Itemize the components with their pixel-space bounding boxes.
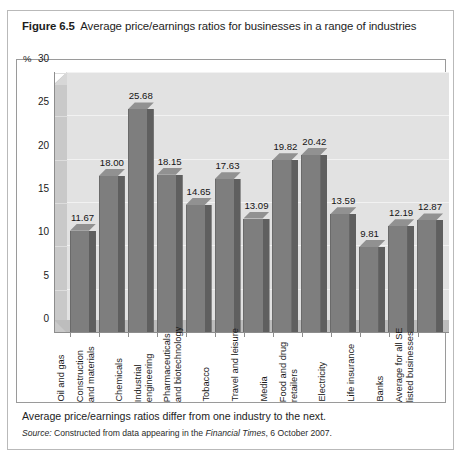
bar-side-face [436,220,443,332]
bar-value-label: 12.87 [418,201,442,212]
x-axis-category-label: Life insurance [346,344,357,402]
category-label-line: listed businesses [404,327,415,402]
bar-value-label: 20.42 [302,136,326,147]
bar-value-label: 18.15 [158,156,182,167]
bar [272,153,291,332]
category-label-line: Average for all SE [393,327,404,402]
bar-value-label: 19.82 [273,141,297,152]
bar-value-label: 25.68 [129,90,153,101]
bar-front-face [99,176,119,332]
category-label-line: Tobacco [201,367,212,402]
category-label-line: Chemicals [115,359,126,402]
bar [215,172,234,332]
bar [301,148,320,332]
bar-front-face [388,226,408,332]
category-label-line: engineering [144,353,155,402]
category-label-line: Life insurance [346,344,357,402]
category-label-line: retailers [288,342,299,402]
category-label-line: Construction [75,346,86,402]
bar-value-label: 12.19 [389,207,413,218]
bar-front-face [359,247,379,332]
x-axis-line [54,332,449,333]
bar-value-label: 13.59 [331,195,355,206]
figure-title-text: Average price/earnings ratios for busine… [80,20,416,32]
figure-title: Figure 6.5 Average price/earnings ratios… [22,19,442,35]
bar-side-face [118,176,125,332]
x-axis-category-label: Industrialengineering [133,353,154,402]
x-axis-tick [389,333,390,337]
bar-front-face [272,160,292,332]
x-axis-category-labels: Oil and gasConstructionand materialsChem… [17,340,447,402]
y-axis-tick-label: 5 [23,270,49,281]
bar-side-face [147,109,154,332]
y-axis-tick-label: 20 [23,140,49,151]
x-axis-tick [302,333,303,337]
bar-value-label: 17.63 [216,160,240,171]
bar-front-face [70,231,90,332]
x-axis-tick [418,333,419,337]
x-axis-category-label: Banks [375,376,386,402]
y-axis-tick-label: 10 [23,226,49,237]
x-axis-tick [99,333,100,337]
y-axis-tick-label: 30 [23,53,49,64]
bar [128,102,147,332]
bar [99,169,118,332]
gridline-depth-connector [54,276,68,291]
x-axis-tick [186,333,187,337]
y-axis-tick-label: 0 [23,313,49,324]
source-text-before: Constructed from data appearing in the [54,428,203,438]
x-axis-category-label: Oil and gas [57,355,68,402]
gridline-depth-connector [54,146,68,161]
x-axis-tick [70,333,71,337]
category-label-line: Oil and gas [57,355,68,402]
bar-front-face [301,155,321,332]
x-axis-category-label: Average for all SElisted businesses [393,327,414,402]
bar [157,168,176,332]
x-axis-category-label: Food and drugretailers [278,342,299,402]
source-label: Source: [22,428,52,438]
bar-front-face [243,219,263,332]
bar-side-face [205,205,212,332]
bar-side-face [234,179,241,332]
category-label-line: and biotechnology [173,327,184,402]
bar-value-label: 13.09 [244,200,268,211]
bar [388,219,407,332]
x-axis-category-label: Media [259,377,270,402]
x-axis-tick [331,333,332,337]
bar-side-face [263,219,270,332]
category-label-line: Banks [375,376,386,402]
bar-side-face [378,247,385,332]
y-axis-line [54,72,55,333]
bar [243,212,262,332]
gridline [67,115,449,116]
category-label-line: Electricity [317,362,328,402]
category-label-line: Pharmaceuticals [162,327,173,402]
bar-front-face [417,220,437,332]
bar [70,224,89,332]
bar-value-label: 11.67 [71,212,94,223]
category-label-line: Media [259,377,270,402]
gridline-depth-connector [54,189,68,204]
y-axis-tick-label: 15 [23,183,49,194]
bar-value-label: 9.81 [360,228,379,239]
bar [417,213,436,332]
x-axis-tick [360,333,361,337]
figure-source: Source: Constructed from data appearing … [22,428,332,438]
bar-front-face [157,175,177,332]
category-label-line: Travel and leisure [230,328,241,402]
gridline-depth-connector [54,59,68,74]
x-axis-tick [157,333,158,337]
x-axis-category-label: Pharmaceuticalsand biotechnology [162,327,183,402]
gridline [67,159,449,160]
bar-value-label: 18.00 [100,157,124,168]
figure-number: Figure 6.5 [22,20,75,32]
x-axis-tick [273,333,274,337]
bar-front-face [186,205,206,332]
gridline-depth-connector [54,102,68,117]
bar-side-face [291,160,298,332]
y-axis-tick-label: 25 [23,96,49,107]
bar [359,240,378,332]
bar-side-face [89,231,96,332]
figure-container: Figure 6.5 Average price/earnings ratios… [7,10,454,450]
x-axis-category-label: Constructionand materials [75,346,96,402]
